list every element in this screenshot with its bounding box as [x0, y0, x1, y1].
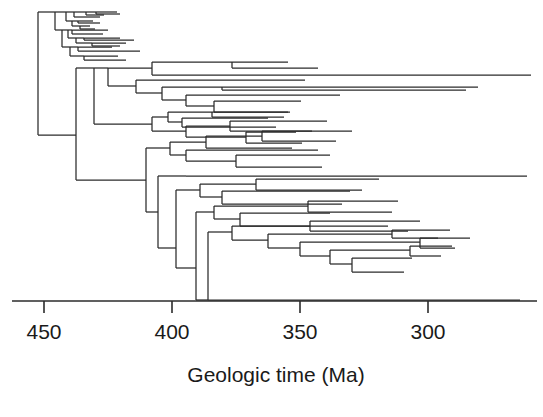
axis-tick-group: 450400350300	[26, 301, 445, 343]
axis-tick-label: 400	[154, 320, 189, 343]
axis-tick-label: 350	[282, 320, 317, 343]
axis-title: Geologic time (Ma)	[187, 363, 364, 386]
time-axis: 450400350300	[12, 301, 537, 343]
branch-layer	[38, 12, 531, 300]
axis-tick-label: 300	[410, 320, 445, 343]
tree-plot: 450400350300 Geologic time (Ma)	[0, 0, 543, 417]
axis-tick-label: 450	[26, 320, 61, 343]
phylogenetic-tree-figure: 450400350300 Geologic time (Ma)	[0, 0, 543, 417]
